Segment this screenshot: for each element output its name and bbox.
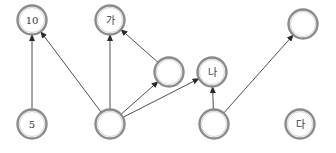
graph-node-nda: 다 — [286, 110, 315, 139]
graph-node-nbc — [96, 110, 125, 139]
graph-node-nmid — [155, 58, 184, 87]
edge-arrow-nmid-to-nga — [121, 30, 158, 63]
node-label: 다 — [296, 119, 305, 130]
nodes-group: 10가나5다 — [18, 6, 318, 139]
graph-node-n10: 10 — [18, 6, 47, 35]
node-circle — [289, 10, 318, 39]
node-label: 나 — [208, 67, 217, 78]
graph-node-nna: 나 — [198, 58, 227, 87]
node-circle — [200, 110, 229, 139]
edge-arrow-nbr-to-ntr — [224, 35, 293, 113]
node-label: 5 — [29, 119, 35, 130]
node-label: 10 — [26, 15, 39, 26]
edge-arrow-nbc-to-n10 — [41, 32, 101, 112]
graph-node-ntr — [289, 10, 318, 39]
node-circle — [96, 110, 125, 139]
node-label: 가 — [106, 15, 115, 26]
graph-node-n5: 5 — [18, 110, 47, 139]
graph-node-nbr — [200, 110, 229, 139]
directed-graph-diagram: 10가나5다 — [0, 0, 336, 153]
node-circle — [155, 58, 184, 87]
graph-node-nga: 가 — [96, 6, 125, 35]
edge-arrow-nbr-to-nna — [213, 87, 214, 110]
